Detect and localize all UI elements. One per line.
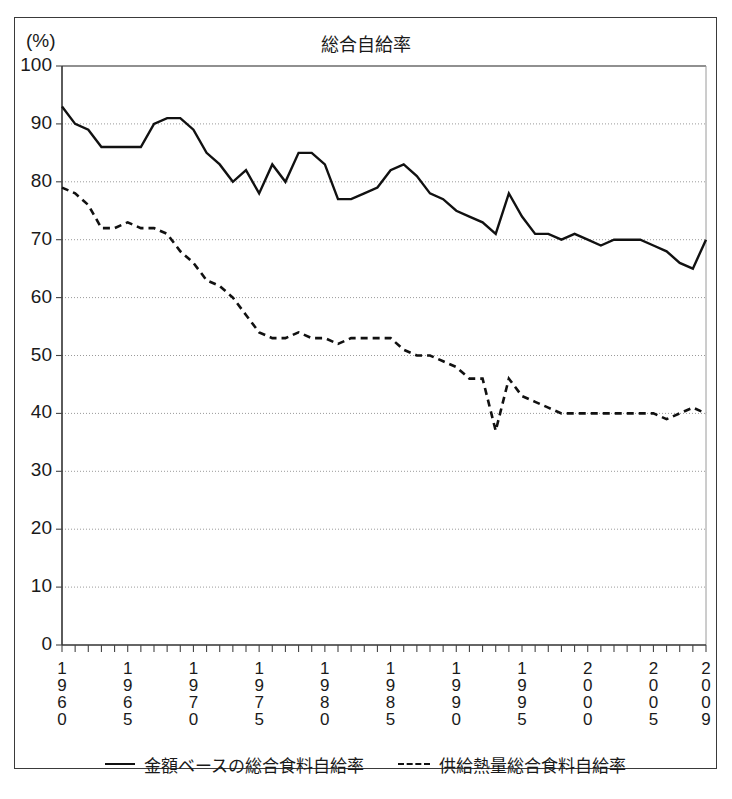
x-axis-label-digit: 8 xyxy=(380,694,402,711)
legend-value-based: 金額ベースの総合食料自給率 xyxy=(105,752,364,777)
x-axis-label-digit: 5 xyxy=(380,711,402,728)
x-axis-label-digit: 9 xyxy=(445,677,467,694)
x-axis-label-digit: 2 xyxy=(577,660,599,677)
x-axis-label-digit: 1 xyxy=(248,660,270,677)
x-axis-tick-label: 2009 xyxy=(695,660,717,728)
y-axis-tick-label: 90 xyxy=(6,112,52,134)
x-axis-label-digit: 7 xyxy=(182,694,204,711)
x-axis-label-digit: 6 xyxy=(117,694,139,711)
legend-calorie-based: 供給熱量総合食料自給率 xyxy=(398,752,626,777)
x-axis-label-digit: 2 xyxy=(642,660,664,677)
x-axis-tick-label: 2000 xyxy=(577,660,599,728)
x-axis-tick-label: 1990 xyxy=(445,660,467,728)
x-axis-label-digit: 0 xyxy=(642,677,664,694)
y-axis-tick-label: 0 xyxy=(6,633,52,655)
x-axis-label-digit: 0 xyxy=(695,694,717,711)
y-axis-tick-label: 30 xyxy=(6,459,52,481)
chart-title: 総合自給率 xyxy=(0,30,732,56)
x-axis-label-digit: 9 xyxy=(51,677,73,694)
y-axis-tick-label: 60 xyxy=(6,286,52,308)
x-axis-label-digit: 1 xyxy=(182,660,204,677)
chart-legend: 金額ベースの総合食料自給率供給熱量総合食料自給率 xyxy=(14,744,717,784)
y-axis-tick-label: 70 xyxy=(6,228,52,250)
x-axis-label-digit: 1 xyxy=(380,660,402,677)
x-axis-label-digit: 0 xyxy=(445,711,467,728)
chart-page: (%) 総合自給率 0102030405060708090100 1960196… xyxy=(0,0,732,799)
x-axis-label-digit: 9 xyxy=(117,677,139,694)
legend-dashed-swatch-icon xyxy=(398,763,430,765)
x-axis-label-digit: 5 xyxy=(642,711,664,728)
x-axis-label-digit: 9 xyxy=(182,677,204,694)
x-axis-tick-label: 2005 xyxy=(642,660,664,728)
x-axis-label-digit: 0 xyxy=(642,694,664,711)
y-axis-tick-label: 80 xyxy=(6,170,52,192)
y-axis-tick-label: 40 xyxy=(6,401,52,423)
x-axis-label-digit: 5 xyxy=(248,711,270,728)
x-axis-tick-label: 1965 xyxy=(117,660,139,728)
x-axis-tick-label: 1960 xyxy=(51,660,73,728)
x-axis-label-digit: 9 xyxy=(511,677,533,694)
x-axis-label-digit: 0 xyxy=(695,677,717,694)
y-axis-tick-label: 10 xyxy=(6,575,52,597)
y-axis-tick-label: 50 xyxy=(6,344,52,366)
x-axis-label-digit: 9 xyxy=(445,694,467,711)
x-axis-label-digit: 1 xyxy=(314,660,336,677)
x-axis-label-digit: 9 xyxy=(511,694,533,711)
legend-solid-swatch-icon xyxy=(105,763,135,765)
x-axis-label-digit: 2 xyxy=(695,660,717,677)
legend-label: 供給熱量総合食料自給率 xyxy=(439,752,626,777)
x-axis-tick-label: 1995 xyxy=(511,660,533,728)
x-axis-label-digit: 0 xyxy=(182,711,204,728)
x-axis-label-digit: 1 xyxy=(117,660,139,677)
x-axis-tick-label: 1975 xyxy=(248,660,270,728)
x-axis-label-digit: 9 xyxy=(695,711,717,728)
x-axis-label-digit: 1 xyxy=(511,660,533,677)
x-axis-label-digit: 9 xyxy=(314,677,336,694)
chart-outer-frame xyxy=(14,17,717,769)
x-axis-label-digit: 8 xyxy=(314,694,336,711)
x-axis-label-digit: 9 xyxy=(380,677,402,694)
x-axis-label-digit: 0 xyxy=(51,711,73,728)
x-axis-label-digit: 7 xyxy=(248,694,270,711)
x-axis-label-digit: 0 xyxy=(314,711,336,728)
x-axis-label-digit: 0 xyxy=(577,677,599,694)
x-axis-tick-label: 1985 xyxy=(380,660,402,728)
legend-label: 金額ベースの総合食料自給率 xyxy=(144,752,364,777)
x-axis-label-digit: 6 xyxy=(51,694,73,711)
y-axis-tick-label: 20 xyxy=(6,517,52,539)
x-axis-label-digit: 1 xyxy=(445,660,467,677)
x-axis-label-digit: 1 xyxy=(51,660,73,677)
x-axis-tick-label: 1970 xyxy=(182,660,204,728)
x-axis-label-digit: 5 xyxy=(511,711,533,728)
y-axis-tick-label: 100 xyxy=(6,54,52,76)
x-axis-label-digit: 0 xyxy=(577,711,599,728)
x-axis-label-digit: 0 xyxy=(577,694,599,711)
x-axis-tick-label: 1980 xyxy=(314,660,336,728)
x-axis-label-digit: 5 xyxy=(117,711,139,728)
x-axis-label-digit: 9 xyxy=(248,677,270,694)
